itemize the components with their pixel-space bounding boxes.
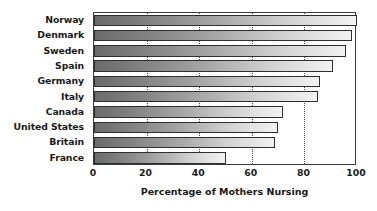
category-label: Germany xyxy=(38,73,84,88)
bar xyxy=(94,30,352,41)
category-axis: NorwayDenmarkSwedenSpainGermanyItalyCana… xyxy=(0,12,88,165)
category-label: Canada xyxy=(46,104,84,119)
bar-row xyxy=(94,28,355,43)
bar xyxy=(94,15,357,26)
bar xyxy=(94,60,333,71)
bar-row xyxy=(94,151,355,166)
category-label: Spain xyxy=(55,58,84,73)
bar-row xyxy=(94,13,355,28)
bar xyxy=(94,76,320,87)
value-axis: 020406080100 xyxy=(93,167,356,183)
bars-layer xyxy=(94,13,355,164)
category-label: Norway xyxy=(45,12,84,27)
bar-row xyxy=(94,74,355,89)
category-label: United States xyxy=(14,119,84,134)
bar xyxy=(94,106,283,117)
category-label: Sweden xyxy=(43,43,84,58)
bar-row xyxy=(94,135,355,150)
bar-row xyxy=(94,59,355,74)
category-label: Denmark xyxy=(37,27,84,42)
x-tick-label: 40 xyxy=(192,167,205,178)
bar xyxy=(94,45,346,56)
bar xyxy=(94,152,226,163)
bar xyxy=(94,122,278,133)
bar xyxy=(94,137,275,148)
category-label: Italy xyxy=(61,89,84,104)
x-tick-label: 0 xyxy=(90,167,96,178)
plot-area xyxy=(93,12,356,165)
x-tick-label: 60 xyxy=(244,167,257,178)
x-tick-label: 100 xyxy=(346,167,365,178)
bar-row xyxy=(94,90,355,105)
bar-row xyxy=(94,120,355,135)
category-label: France xyxy=(50,150,84,165)
x-tick-label: 80 xyxy=(297,167,310,178)
bar xyxy=(94,91,318,102)
bar-row xyxy=(94,44,355,59)
category-label: Britain xyxy=(49,134,84,149)
bar-chart: NorwayDenmarkSwedenSpainGermanyItalyCana… xyxy=(0,0,377,211)
x-axis-title: Percentage of Mothers Nursing xyxy=(93,186,356,197)
x-tick-label: 20 xyxy=(139,167,152,178)
bar-row xyxy=(94,105,355,120)
